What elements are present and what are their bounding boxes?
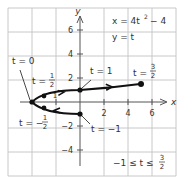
svg-text:3: 3 xyxy=(160,154,164,162)
y-tick-2: 2 xyxy=(68,74,73,83)
point-t-half xyxy=(42,94,47,99)
label-t-half: t = 1 2 xyxy=(32,72,55,89)
parametric-plot: y x 6 4 2 −2 −4 2 4 6 1 t = 0 t = 1 2 t … xyxy=(0,0,182,184)
label-t-three-halves: t = 3 2 xyxy=(133,63,156,80)
svg-text:−1 ≤ t ≤: −1 ≤ t ≤ xyxy=(113,158,153,168)
svg-text:x = 4t: x = 4t xyxy=(112,16,140,26)
svg-text:1: 1 xyxy=(43,114,47,122)
svg-text:t = −: t = − xyxy=(19,118,43,128)
domain-label: −1 ≤ t ≤ 3 2 xyxy=(113,154,165,171)
svg-text:− 4: − 4 xyxy=(150,16,166,26)
label-t1: t = 1 xyxy=(90,66,113,76)
equation-y: y = t xyxy=(112,32,135,42)
svg-text:2: 2 xyxy=(151,72,155,80)
label-t0: t = 0 xyxy=(12,56,35,66)
point-t0 xyxy=(29,99,34,104)
y-tick-neg4: −4 xyxy=(61,146,73,155)
point-t1 xyxy=(77,87,82,92)
label-t-neg1: t = −1 xyxy=(91,124,121,134)
x-tick-6: 6 xyxy=(149,109,154,118)
svg-text:t =: t = xyxy=(133,68,147,78)
point-t-neg-half xyxy=(42,106,47,111)
svg-text:2: 2 xyxy=(160,163,164,171)
y-tick-4: 4 xyxy=(68,50,73,59)
x-tick-2: 2 xyxy=(101,109,106,118)
y-axis-label: y xyxy=(74,6,81,16)
svg-text:1: 1 xyxy=(50,72,54,80)
grid xyxy=(8,8,176,176)
point-t-neg1 xyxy=(77,111,82,116)
svg-text:2: 2 xyxy=(50,81,54,89)
svg-text:3: 3 xyxy=(151,63,155,71)
axes xyxy=(20,16,167,166)
svg-text:2: 2 xyxy=(43,123,47,131)
svg-text:2: 2 xyxy=(144,13,148,20)
x-axis-label: x xyxy=(170,97,177,107)
x-tick-4: 4 xyxy=(125,109,130,118)
y-tick-neg2: −2 xyxy=(61,122,73,131)
y-tick-6: 6 xyxy=(68,26,73,35)
equations: x = 4t 2 − 4 y = t xyxy=(112,13,166,42)
svg-text:t =: t = xyxy=(32,76,46,86)
point-t-three-halves xyxy=(138,81,144,87)
parametric-curve xyxy=(32,84,140,114)
